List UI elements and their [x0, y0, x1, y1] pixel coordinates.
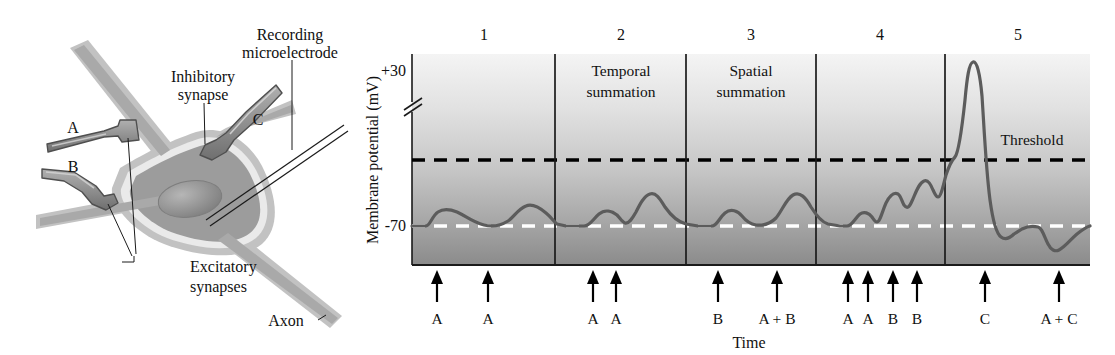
y-tick-label-minus70: -70 [385, 217, 406, 234]
panel-3-caption-line1: Spatial [729, 62, 772, 79]
inhibitory-synapse-label-line1: Inhibitory [171, 68, 235, 86]
stimulus-marker-2: A [482, 270, 494, 327]
terminal-b-label: B [68, 158, 79, 175]
stimulus-label-10: B [912, 310, 922, 327]
panel-number-5: 5 [1014, 26, 1022, 43]
stimulus-label-3: A [587, 310, 599, 327]
y-axis-title: Membrane potential (mV) [364, 76, 382, 244]
panel-number-4: 4 [876, 26, 884, 43]
stimulus-marker-5: B [712, 270, 724, 327]
stimulus-label-5: B [713, 310, 723, 327]
stimulus-label-11: C [980, 310, 990, 327]
terminal-b-shape [42, 169, 118, 210]
stimulus-marker-4: A [610, 270, 622, 327]
panel-number-1: 1 [480, 26, 488, 43]
recording-microelectrode-label-line2: microelectrode [242, 44, 338, 61]
stimulus-label-6: A + B [758, 310, 795, 327]
terminal-a-shape [47, 120, 139, 152]
panel-number-2: 2 [617, 26, 625, 43]
stimulus-label-9: B [888, 310, 898, 327]
stimulus-label-4: A [610, 310, 622, 327]
panel-2-caption-line2: summation [587, 83, 656, 100]
stimulus-marker-3: A [587, 270, 599, 327]
stimulus-marker-7: A [842, 270, 854, 327]
stimulus-arrows: A A A A [431, 270, 1078, 327]
figure-root: Recording microelectrode Inhibitory syna… [0, 0, 1115, 355]
stimulus-label-8: A [862, 310, 874, 327]
stimulus-label-7: A [842, 310, 854, 327]
membrane-potential-chart: +30 -70 Membrane potential (mV) Threshol… [360, 0, 1115, 355]
panel-2-caption-line1: Temporal [591, 62, 650, 79]
neuron-diagram: Recording microelectrode Inhibitory syna… [0, 0, 360, 355]
chart-svg: +30 -70 Membrane potential (mV) Threshol… [360, 0, 1115, 355]
excitatory-synapses-label-line1: Excitatory [190, 258, 257, 276]
panel-3-caption-line2: summation [717, 83, 786, 100]
stimulus-label-12: A + C [1040, 310, 1077, 327]
synapse-terminal-b [42, 169, 118, 210]
leader-excitatory-elbow [122, 256, 134, 262]
excitatory-synapses-label-line2: synapses [190, 278, 247, 296]
stimulus-marker-6: A + B [758, 270, 795, 327]
stimulus-marker-9: B [887, 270, 899, 327]
stimulus-marker-1: A [431, 270, 443, 327]
terminal-a-label: A [67, 119, 79, 136]
stimulus-marker-11: C [979, 270, 991, 327]
synapse-terminal-a [47, 120, 139, 152]
stimulus-marker-8: A [862, 270, 874, 327]
stimulus-marker-10: B [911, 270, 923, 327]
neuron-diagram-svg: Recording microelectrode Inhibitory syna… [0, 0, 360, 355]
x-axis-title: Time [732, 334, 765, 351]
stimulus-marker-12: A + C [1040, 270, 1077, 327]
stimulus-label-1: A [431, 310, 443, 327]
terminal-c-label: C [253, 111, 264, 128]
threshold-label: Threshold [1001, 131, 1064, 148]
inhibitory-synapse-label-line2: synapse [178, 86, 229, 104]
panel-number-3: 3 [747, 26, 755, 43]
axon-label: Axon [268, 312, 304, 329]
y-tick-label-plus30: +30 [381, 62, 406, 79]
stimulus-label-2: A [482, 310, 494, 327]
recording-microelectrode-label-line1: Recording [257, 26, 324, 44]
